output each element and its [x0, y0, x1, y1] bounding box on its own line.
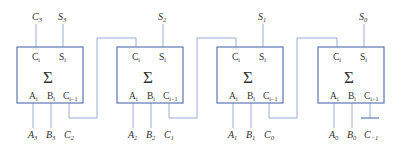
ripple-carry-adder-diagram: Ci Si Σ Ai Bi Ci−1 Ci Si Σ Ai Bi Ci−1 Ci…: [0, 0, 398, 150]
carry-cminus1-label: C−1: [364, 129, 378, 141]
sum-s2-label: S2: [158, 11, 167, 23]
carry-c0-label: C0: [264, 129, 275, 141]
sigma-icon: Σ: [243, 68, 253, 87]
sum-s3-label: S3: [58, 11, 67, 23]
sum-s0-label: S0: [359, 11, 368, 23]
input-a2-label: A2: [127, 129, 138, 141]
input-a1-label: A1: [227, 129, 237, 141]
input-b3-label: B3: [46, 129, 56, 141]
sum-s1-label: S1: [258, 11, 266, 23]
input-a0-label: A0: [328, 129, 339, 141]
carry-out-c3-label: C3: [32, 11, 43, 23]
carry-c1-label: C1: [164, 129, 174, 141]
input-b2-label: B2: [146, 129, 156, 141]
input-b0-label: B0: [347, 129, 357, 141]
sigma-icon: Σ: [143, 68, 153, 87]
input-a3-label: A3: [27, 129, 38, 141]
sigma-icon: Σ: [344, 68, 354, 87]
carry-c2-label: C2: [64, 129, 75, 141]
sigma-icon: Σ: [43, 68, 53, 87]
input-b1-label: B1: [246, 129, 255, 141]
